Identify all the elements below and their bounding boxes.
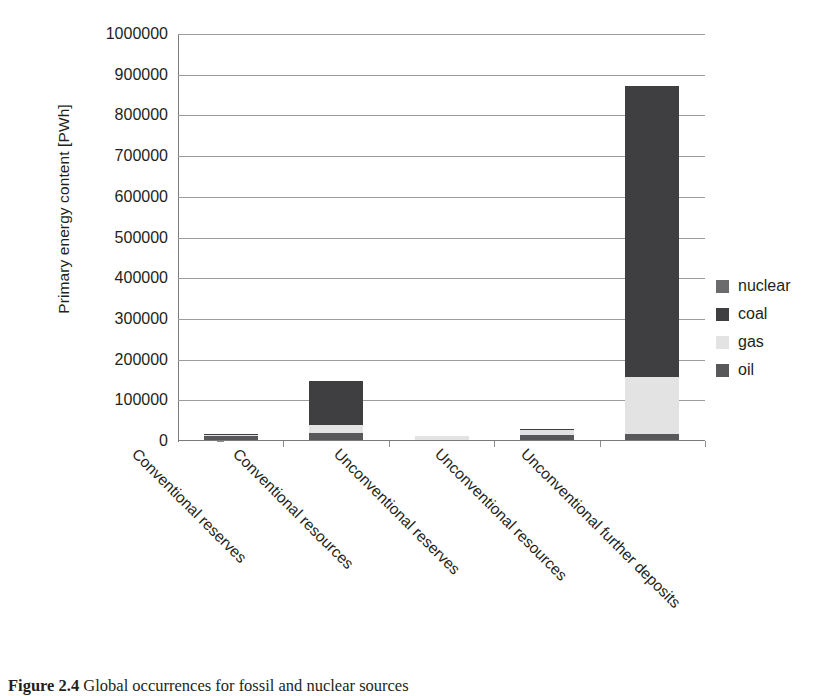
legend-swatch-gas — [716, 336, 729, 349]
y-axis-tick-label: 300000 — [115, 311, 168, 327]
bar-segment-gas[interactable] — [415, 436, 469, 440]
legend-label: nuclear — [738, 278, 790, 294]
y-axis-tick-label: 700000 — [115, 148, 168, 164]
gridline — [178, 75, 705, 76]
legend-swatch-oil — [716, 364, 729, 377]
bar-segment-oil[interactable] — [625, 434, 679, 440]
legend-item-coal[interactable]: coal — [716, 300, 824, 328]
figure-caption: Figure 2.4 Global occurrences for fossil… — [8, 676, 820, 696]
y-axis-tick-label: 900000 — [115, 67, 168, 83]
bar-segment-coal[interactable] — [309, 381, 363, 425]
y-axis-tick-labels: 1000000900000800000700000600000500000400… — [46, 34, 168, 441]
bar-segment-oil[interactable] — [204, 436, 258, 440]
legend-label: gas — [738, 334, 764, 350]
legend-swatch-nuclear — [716, 280, 729, 293]
legend-item-nuclear[interactable]: nuclear — [716, 272, 824, 300]
y-axis-tick-label: 1000000 — [106, 26, 168, 42]
y-axis-tick-label: 200000 — [115, 352, 168, 368]
figure-container: Primary energy content [PWh] 10000009000… — [0, 0, 828, 696]
bar-segment-oil[interactable] — [520, 435, 574, 440]
legend-item-oil[interactable]: oil — [716, 356, 824, 384]
bar-segment-coal[interactable] — [625, 86, 679, 377]
bar-segment-gas[interactable] — [520, 429, 574, 435]
chart-legend: nuclearcoalgasoil — [716, 272, 824, 384]
x-axis-tick-labels: Conventional reservesConventional resour… — [178, 443, 738, 633]
legend-label: oil — [738, 362, 754, 378]
legend-label: coal — [738, 306, 767, 322]
y-axis-tick-label: 0 — [159, 433, 168, 449]
figure-caption-number: Figure 2.4 — [8, 676, 79, 695]
bar-segment-coal[interactable] — [204, 434, 258, 435]
legend-item-gas[interactable]: gas — [716, 328, 824, 356]
y-axis-tick-mark — [217, 441, 224, 442]
x-axis-line — [178, 440, 705, 441]
y-axis-tick-label: 800000 — [115, 107, 168, 123]
y-axis-tick-label: 100000 — [115, 392, 168, 408]
x-axis-tick-label: Unconventional further deposits — [518, 445, 685, 612]
legend-swatch-coal — [716, 308, 729, 321]
plot-area — [178, 34, 705, 441]
y-axis-tick-label: 400000 — [115, 270, 168, 286]
x-axis-tick-label: Conventional reserves — [128, 445, 250, 567]
figure-caption-text: Global occurrences for fossil and nuclea… — [83, 676, 408, 695]
bar-segment-gas[interactable] — [309, 425, 363, 433]
bar-segment-gas[interactable] — [204, 435, 258, 437]
y-axis-tick-label: 500000 — [115, 230, 168, 246]
bar-segment-gas[interactable] — [625, 377, 679, 434]
y-axis-tick-label: 600000 — [115, 189, 168, 205]
bar-segment-oil[interactable] — [309, 433, 363, 440]
gridline — [178, 34, 705, 35]
